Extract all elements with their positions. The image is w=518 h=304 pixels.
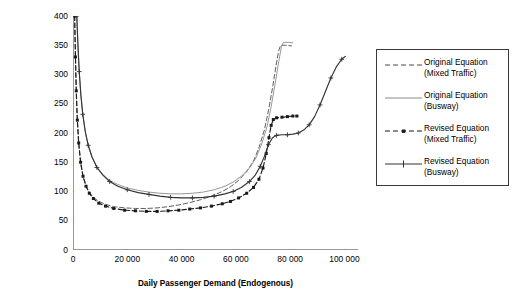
legend-item-original-busway[interactable]: Original Equation(Busway) [377, 90, 508, 123]
legend-label-line2: (Mixed Traffic) [424, 134, 489, 145]
chart-legend: Original Equation(Mixed Traffic)Original… [376, 49, 509, 186]
series-marker-revised-mixed-traffic [156, 210, 159, 213]
legend-label: Original Equation(Busway) [424, 90, 488, 111]
series-marker-revised-mixed-traffic [257, 178, 260, 181]
series-marker-revised-mixed-traffic [229, 200, 232, 203]
plot-lines [73, 16, 358, 250]
series-marker-revised-mixed-traffic [199, 206, 202, 209]
chart-figure: Average Social Cost per Passenger kilome… [0, 0, 518, 304]
legend-label-line2: (Busway) [424, 101, 488, 112]
series-group [73, 16, 345, 213]
legend-item-revised-busway[interactable]: Revised Equation(Busway) [377, 156, 508, 189]
series-marker-revised-mixed-traffic [262, 167, 265, 170]
legend-label-line2: (Mixed Traffic) [424, 68, 488, 79]
legend-key-icon [383, 124, 424, 138]
series-line-revised-mixed-traffic [75, 16, 297, 211]
series-marker-revised-mixed-traffic [112, 207, 115, 210]
series-marker-revised-mixed-traffic [82, 175, 85, 178]
series-marker-revised-mixed-traffic [92, 197, 95, 200]
series-marker-revised-mixed-traffic [245, 192, 248, 195]
legend-label-line1: Original Equation [424, 57, 488, 68]
series-marker-revised-mixed-traffic [281, 116, 284, 119]
chart-plot-region: Average Social Cost per Passenger kilome… [0, 0, 372, 304]
x-tick-label: 100 000 [314, 254, 374, 264]
series-marker-revised-mixed-traffic [188, 208, 191, 211]
series-marker-revised-mixed-traffic [270, 124, 273, 127]
legend-label-line2: (Busway) [424, 167, 489, 178]
y-tick-label: 100 [40, 186, 68, 196]
x-axis-title: Daily Passenger Demand (Endogenous) [73, 279, 358, 288]
y-tick-label: 300 [40, 69, 68, 79]
y-tick-label: 400 [40, 11, 68, 21]
series-marker-revised-mixed-traffic [291, 115, 294, 118]
series-marker-revised-mixed-traffic [167, 209, 170, 212]
series-marker-revised-mixed-traffic [85, 185, 88, 188]
legend-key-icon [383, 58, 424, 72]
legend-label-line1: Revised Equation [424, 123, 489, 134]
legend-key-marker [402, 130, 405, 133]
y-tick-label: 250 [40, 98, 68, 108]
y-tick-label: 0 [40, 245, 68, 255]
series-revised-mixed-traffic [73, 16, 298, 213]
legend-label-line1: Revised Equation [424, 156, 489, 167]
legend-item-original-mixed-traffic[interactable]: Original Equation(Mixed Traffic) [377, 57, 508, 90]
y-tick-label: 150 [40, 157, 68, 167]
y-tick-label: 200 [40, 128, 68, 138]
series-marker-revised-mixed-traffic [237, 196, 240, 199]
legend-key-icon [383, 91, 424, 105]
series-marker-revised-mixed-traffic [74, 55, 77, 58]
legend-key-icon [383, 157, 424, 171]
series-marker-revised-mixed-traffic [210, 205, 213, 208]
series-line-revised-busway [77, 16, 345, 198]
series-marker-revised-mixed-traffic [286, 115, 289, 118]
x-tick-label: 0 [43, 254, 103, 264]
y-tick-label: 50 [40, 215, 68, 225]
legend-item-revised-mixed-traffic[interactable]: Revised Equation(Mixed Traffic) [377, 123, 508, 156]
series-marker-revised-mixed-traffic [252, 186, 255, 189]
series-marker-revised-mixed-traffic [77, 141, 80, 144]
x-axis-ticklabels: 020 00040 00060 00080 000100 000 [0, 254, 372, 268]
legend-label: Revised Equation(Mixed Traffic) [424, 123, 489, 144]
legend-label: Original Equation(Mixed Traffic) [424, 57, 488, 78]
legend-label-line1: Original Equation [424, 90, 488, 101]
series-marker-revised-mixed-traffic [267, 136, 270, 139]
series-marker-revised-mixed-traffic [272, 118, 275, 121]
y-tick-label: 350 [40, 40, 68, 50]
series-marker-revised-mixed-traffic [221, 202, 224, 205]
x-tick-label: 20 000 [97, 254, 157, 264]
series-marker-revised-mixed-traffic [123, 209, 126, 212]
x-tick-label: 60 000 [206, 254, 266, 264]
series-marker-revised-mixed-traffic [134, 209, 137, 212]
series-marker-revised-mixed-traffic [275, 116, 278, 119]
series-marker-revised-mixed-traffic [145, 210, 148, 213]
series-marker-revised-mixed-traffic [104, 205, 107, 208]
series-marker-revised-mixed-traffic [177, 209, 180, 212]
series-marker-revised-mixed-traffic [76, 119, 79, 122]
series-marker-revised-mixed-traffic [79, 161, 82, 164]
series-marker-revised-mixed-traffic [75, 89, 78, 92]
series-svg [73, 16, 358, 250]
series-revised-busway [74, 16, 345, 200]
series-marker-revised-mixed-traffic [88, 192, 91, 195]
series-marker-revised-mixed-traffic [295, 115, 298, 118]
x-tick-label: 80 000 [260, 254, 320, 264]
legend-label: Revised Equation(Busway) [424, 156, 489, 177]
series-marker-revised-mixed-traffic [97, 202, 100, 205]
x-tick-label: 40 000 [152, 254, 212, 264]
